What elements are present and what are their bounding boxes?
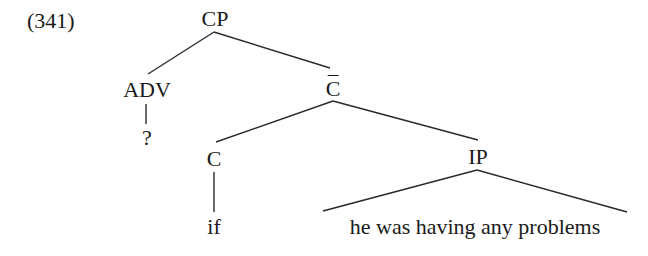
- node-cp: CP: [202, 8, 229, 30]
- node-adv: ADV: [123, 79, 171, 101]
- node-c-bar: C: [326, 78, 341, 100]
- triangle-ip-right: [477, 170, 627, 212]
- syntax-tree-diagram: (341) CP ADV C ? C IP if he was having a…: [0, 0, 648, 256]
- branch-cp-adv: [148, 32, 214, 74]
- node-ip-terminal: he was having any problems: [350, 216, 601, 238]
- node-adv-terminal: ?: [142, 127, 152, 149]
- node-ip: IP: [468, 146, 488, 168]
- node-c: C: [207, 148, 222, 170]
- example-number: (341): [27, 10, 75, 32]
- branch-cbar-c: [216, 101, 333, 142]
- triangle-ip-left: [323, 170, 477, 211]
- branch-cbar-ip: [333, 101, 478, 140]
- c-bar-label: C: [326, 78, 341, 100]
- branch-cp-cbar: [214, 32, 330, 68]
- node-c-terminal: if: [207, 216, 220, 238]
